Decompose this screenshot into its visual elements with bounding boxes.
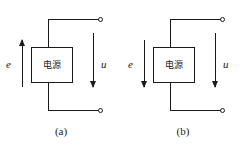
wire-top-vertical	[48, 19, 49, 47]
arrow-down-icon-voltage	[88, 33, 99, 87]
caption-b: (b)	[122, 126, 244, 137]
circuit-figure: 电源 e u (a) 电源 e	[0, 0, 244, 150]
wire-top-horizontal	[170, 19, 222, 20]
circuit-diagram-b: 电源 e u (b)	[122, 0, 244, 150]
arrow-down-icon-voltage	[210, 33, 221, 87]
arrow-head	[141, 81, 147, 88]
emf-label: e	[6, 59, 11, 70]
arrow-shaft	[93, 33, 94, 87]
open-circle-terminal-icon-top	[220, 17, 225, 22]
arrow-up-icon-emf	[17, 40, 28, 87]
wire-top-vertical	[170, 19, 171, 47]
open-circle-terminal-icon-bottom	[98, 108, 103, 113]
arrow-shaft	[215, 33, 216, 87]
voltage-label: u	[101, 59, 107, 70]
source-box-label: 电源	[165, 61, 184, 70]
wire-bottom-horizontal	[48, 110, 100, 111]
source-box-label: 电源	[43, 61, 62, 70]
arrow-shaft	[22, 40, 23, 87]
arrow-head	[90, 81, 96, 88]
arrow-head	[19, 39, 25, 46]
caption-a: (a)	[0, 126, 122, 137]
circuit-diagram-a: 电源 e u (a)	[0, 0, 122, 150]
wire-bottom-vertical	[170, 83, 171, 111]
arrow-shaft	[144, 40, 145, 87]
source-box: 电源	[153, 47, 195, 83]
open-circle-terminal-icon-bottom	[220, 108, 225, 113]
wire-bottom-vertical	[48, 83, 49, 111]
wire-top-horizontal	[48, 19, 100, 20]
voltage-label: u	[223, 59, 229, 70]
arrow-down-icon-emf	[139, 40, 150, 87]
wire-bottom-horizontal	[170, 110, 222, 111]
source-box: 电源	[31, 47, 73, 83]
open-circle-terminal-icon-top	[98, 17, 103, 22]
emf-label: e	[128, 59, 133, 70]
arrow-head	[212, 81, 218, 88]
